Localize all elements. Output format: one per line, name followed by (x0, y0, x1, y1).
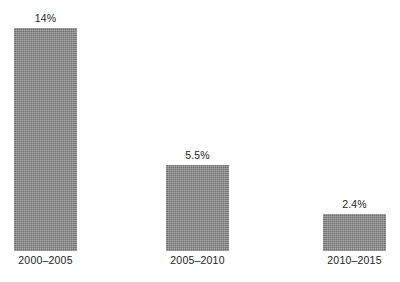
plot-area: 14% 2000–2005 5.5% 2005–2010 2.4% 2010–2… (0, 0, 400, 282)
bar-value-label: 5.5% (166, 149, 229, 161)
bar-chart: 14% 2000–2005 5.5% 2005–2010 2.4% 2010–2… (0, 0, 400, 282)
bar-value-label: 14% (14, 12, 77, 24)
bar-group-1: 14% 2000–2005 (14, 28, 77, 251)
bar-rect[interactable] (166, 165, 229, 251)
bar-category-label: 2005–2010 (160, 254, 235, 266)
bar-group-3: 2.4% 2010–2015 (323, 214, 386, 251)
bar-rect[interactable] (14, 28, 77, 251)
bar-value-label: 2.4% (323, 198, 386, 210)
bar-group-2: 5.5% 2005–2010 (166, 165, 229, 251)
bar-category-label: 2010–2015 (317, 254, 392, 266)
bar-rect[interactable] (323, 214, 386, 251)
bar-category-label: 2000–2005 (8, 254, 83, 266)
